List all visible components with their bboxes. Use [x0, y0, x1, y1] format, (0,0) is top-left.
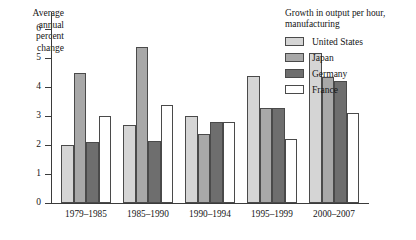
- bar: [86, 142, 99, 203]
- bar: [334, 81, 347, 203]
- legend-entry[interactable]: United States: [285, 34, 413, 50]
- bar: [285, 139, 298, 203]
- bar: [247, 76, 260, 203]
- bar: [148, 141, 161, 203]
- y-axis-tick-label: 5: [21, 53, 41, 63]
- legend-entry-label: Japan: [312, 53, 334, 63]
- legend-entry-label: Germany: [312, 69, 347, 79]
- y-axis-tick-label: 1: [21, 169, 41, 179]
- bar: [347, 113, 360, 203]
- y-axis-tick-label: 4: [21, 82, 41, 92]
- legend-swatch-icon: [285, 85, 304, 94]
- y-axis-tick-label: 3: [21, 111, 41, 121]
- bar-group: [185, 12, 235, 203]
- bar: [123, 125, 136, 203]
- x-axis-line: [51, 203, 369, 204]
- bar: [260, 108, 273, 204]
- bar: [272, 108, 285, 204]
- x-axis-category-label: 2000–2007: [298, 209, 370, 219]
- legend-swatch-icon: [285, 53, 304, 62]
- legend-entry[interactable]: France: [285, 82, 413, 98]
- legend-entry[interactable]: Japan: [285, 50, 413, 66]
- legend-swatch-icon: [285, 37, 304, 46]
- y-axis-tick: [45, 145, 52, 146]
- legend-swatch-icon: [285, 69, 304, 78]
- legend-entry-label: United States: [312, 37, 363, 47]
- legend-entry[interactable]: Germany: [285, 66, 413, 82]
- y-axis-tick-label: 6: [21, 24, 41, 34]
- bar: [99, 116, 112, 203]
- bar: [198, 134, 211, 203]
- bar-group: [61, 12, 111, 203]
- bar: [161, 105, 174, 203]
- bar: [74, 73, 87, 203]
- y-axis-line: [51, 12, 52, 204]
- bar: [210, 122, 223, 203]
- y-axis-tick: [45, 203, 52, 204]
- y-axis-tick: [45, 174, 52, 175]
- bar-chart: Averageannualpercentchange 0123456 1979–…: [0, 0, 416, 240]
- y-axis-tick: [45, 116, 52, 117]
- bar: [185, 116, 198, 203]
- bar: [61, 145, 74, 203]
- bar: [136, 47, 149, 203]
- y-axis-tick: [45, 87, 52, 88]
- y-axis-tick: [45, 29, 52, 30]
- y-axis-tick: [45, 58, 52, 59]
- legend-entries: United StatesJapanGermanyFrance: [285, 34, 413, 98]
- bar-group: [123, 12, 173, 203]
- legend: Growth in output per hour, manufacturing…: [285, 8, 413, 98]
- legend-entry-label: France: [312, 85, 338, 95]
- y-axis-tick-label: 0: [21, 198, 41, 208]
- y-axis-tick-label: 2: [21, 140, 41, 150]
- bar: [223, 122, 236, 203]
- legend-title: Growth in output per hour, manufacturing: [285, 8, 413, 31]
